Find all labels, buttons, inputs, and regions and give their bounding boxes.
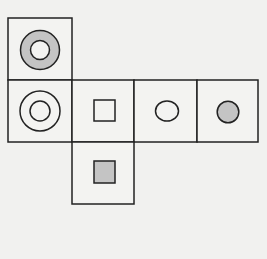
white-square-icon bbox=[94, 100, 115, 121]
cube-net-diagram bbox=[0, 0, 267, 259]
gray-circle-icon bbox=[217, 101, 239, 123]
white-oval-icon bbox=[156, 101, 179, 121]
gray-ring-hole bbox=[31, 41, 50, 60]
gray-square-icon bbox=[94, 161, 115, 183]
face-left bbox=[8, 80, 72, 142]
